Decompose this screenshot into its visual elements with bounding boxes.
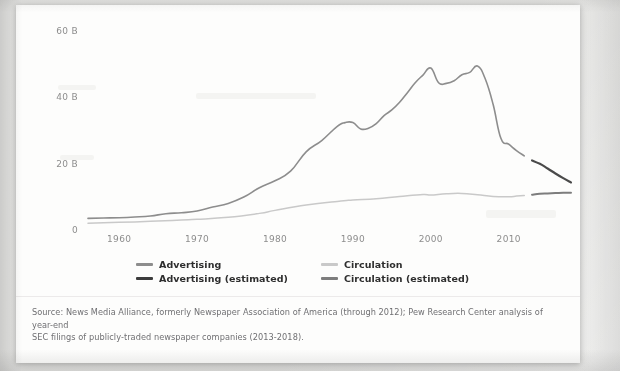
legend-item-circulation-estimated[interactable]: Circulation (estimated) bbox=[321, 273, 496, 284]
legend-label-advertising-estimated: Advertising (estimated) bbox=[159, 273, 288, 284]
legend-label-advertising: Advertising bbox=[159, 259, 221, 270]
source-note: Source: News Media Alliance, formerly Ne… bbox=[32, 306, 552, 344]
y-axis-tick-1: 20 B bbox=[56, 159, 78, 169]
x-axis-tick-2: 1980 bbox=[251, 234, 299, 244]
series-advertising-estimated bbox=[532, 161, 571, 183]
legend-swatch-circulation-estimated bbox=[321, 277, 338, 280]
chart-legend: Advertising Circulation Advertising (est… bbox=[136, 259, 496, 284]
x-axis-tick-4: 2000 bbox=[407, 234, 455, 244]
x-axis-tick-1: 1970 bbox=[173, 234, 221, 244]
source-line-1: Source: News Media Alliance, formerly Ne… bbox=[32, 306, 552, 331]
y-axis-tick-2: 40 B bbox=[56, 92, 78, 102]
legend-item-advertising-estimated[interactable]: Advertising (estimated) bbox=[136, 273, 321, 284]
legend-swatch-advertising bbox=[136, 263, 153, 266]
series-circulation-estimated bbox=[532, 193, 571, 195]
series-advertising bbox=[88, 66, 524, 219]
legend-label-circulation: Circulation bbox=[344, 259, 403, 270]
x-axis-tick-3: 1990 bbox=[329, 234, 377, 244]
legend-swatch-advertising-estimated bbox=[136, 277, 153, 280]
legend-swatch-circulation bbox=[321, 263, 338, 266]
x-axis-tick-5: 2010 bbox=[485, 234, 533, 244]
legend-item-advertising[interactable]: Advertising bbox=[136, 259, 321, 270]
y-axis-tick-0: 0 bbox=[72, 225, 78, 235]
y-axis-tick-3: 60 B bbox=[56, 26, 78, 36]
x-axis-tick-0: 1960 bbox=[95, 234, 143, 244]
legend-label-circulation-estimated: Circulation (estimated) bbox=[344, 273, 469, 284]
chart-series-layer bbox=[88, 66, 571, 224]
series-circulation bbox=[88, 193, 524, 223]
source-line-2: SEC filings of publicly-traded newspaper… bbox=[32, 331, 552, 344]
legend-item-circulation[interactable]: Circulation bbox=[321, 259, 496, 270]
